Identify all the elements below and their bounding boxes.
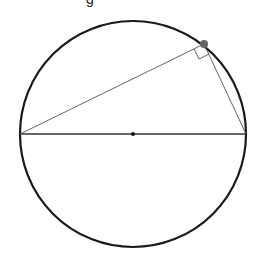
vertex-point [200,40,208,48]
chord-right [204,44,246,134]
thales-diagram [0,0,255,258]
chord-left [20,44,204,134]
center-point [131,132,135,136]
